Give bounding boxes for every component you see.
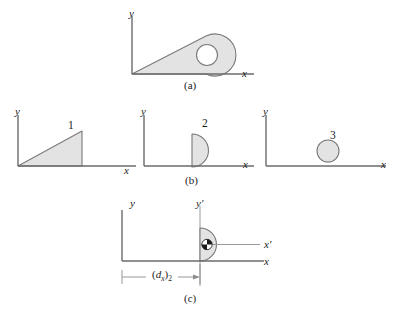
semicircle-shape xyxy=(192,134,209,167)
panel-a xyxy=(128,14,258,80)
panel-a-x-axis-label: x xyxy=(242,68,247,79)
dimension-symbol-subscript: x xyxy=(161,274,164,283)
panel-a-y-axis-label: y xyxy=(129,8,134,19)
panel-c-y-prime-axis-label: y′ xyxy=(196,198,203,209)
shape-label-2: 2 xyxy=(202,118,208,130)
panel-b-left-y-axis-label: y xyxy=(15,106,20,117)
composite-area-figure: y x (a) y x 1 y x 2 (b) y x 3 xyxy=(0,0,394,313)
panel-b xyxy=(140,112,258,172)
circle-shape xyxy=(317,140,339,162)
panel-b-right-y-axis-label: y xyxy=(263,106,268,117)
panel-b-right xyxy=(262,112,390,172)
panel-c-y-axis-label: y xyxy=(130,198,135,209)
panel-c-caption: (c) xyxy=(184,293,196,304)
panel-b-x-axis-label: x xyxy=(243,159,248,170)
shape-label-3: 3 xyxy=(330,130,336,142)
dimension-group-subscript: 2 xyxy=(168,274,172,283)
panel-a-caption: (a) xyxy=(184,80,196,91)
panel-c xyxy=(118,204,268,294)
panel-b-left-x-axis-label: x xyxy=(124,165,129,176)
panel-b-caption: (b) xyxy=(185,175,198,186)
panel-b-y-axis-label: y xyxy=(141,106,146,117)
triangle-shape xyxy=(18,131,82,166)
panel-c-x-axis-label: x xyxy=(264,256,269,267)
panel-b-right-x-axis-label: x xyxy=(381,159,386,170)
panel-c-x-prime-axis-label: x′ xyxy=(264,239,271,250)
centroid-marker-shape xyxy=(202,239,212,249)
dimension-label-dx2: (dx)2 xyxy=(152,269,172,283)
panel-b-left xyxy=(14,112,140,172)
circular-hole-shape xyxy=(197,45,218,66)
shape-label-1: 1 xyxy=(68,120,74,132)
composite-body-shape xyxy=(132,34,236,76)
